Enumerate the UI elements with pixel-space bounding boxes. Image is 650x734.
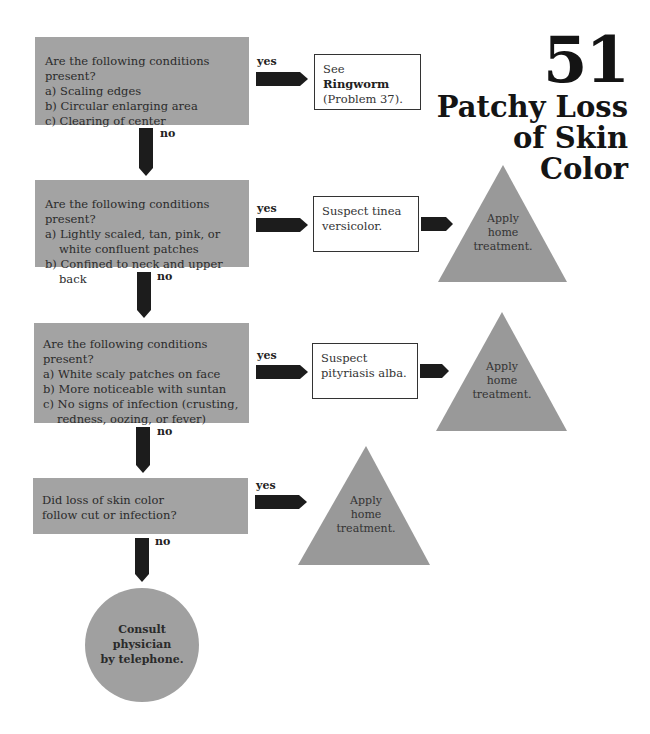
question-box-1: Are the following conditions present? a)… bbox=[35, 37, 249, 125]
problem-number: 51 bbox=[543, 28, 628, 92]
condition-item: c) No signs of infection (crusting, redn… bbox=[43, 397, 241, 427]
arrow-right-treat-1 bbox=[421, 217, 453, 231]
question-box-3: Are the following conditions present? a)… bbox=[34, 323, 249, 423]
arrow-down-no-3 bbox=[136, 427, 150, 473]
condition-item: b) Confined to neck and upper back bbox=[45, 257, 241, 287]
arrow-down-no-1 bbox=[139, 128, 153, 176]
arrow-down-no-4 bbox=[135, 538, 149, 582]
arrow-right-yes-1 bbox=[256, 72, 308, 86]
arrow-right-yes-3 bbox=[256, 365, 308, 379]
home-treatment-label-1: Apply home treatment. bbox=[463, 212, 543, 254]
question-prompt: Are the following conditions present? bbox=[45, 54, 241, 84]
question-prompt: Are the following conditions present? bbox=[43, 337, 241, 367]
title-line-2: of Skin bbox=[513, 123, 628, 154]
question-box-2: Are the following conditions present? a)… bbox=[35, 180, 249, 267]
question-prompt: Did loss of skin color follow cut or inf… bbox=[42, 493, 188, 523]
outcome-prefix: See bbox=[323, 62, 345, 76]
yes-label: yes bbox=[257, 202, 277, 215]
yes-label: yes bbox=[257, 55, 277, 68]
pityriasis-outcome-box: Suspect pityriasis alba. bbox=[312, 343, 418, 399]
condition-item: b) More noticeable with suntan bbox=[43, 382, 241, 397]
title-line-3: Color bbox=[540, 154, 628, 185]
arrow-right-treat-2 bbox=[420, 364, 449, 378]
question-prompt: Are the following conditions present? bbox=[45, 197, 241, 227]
outcome-text: Suspect tinea versicolor. bbox=[322, 204, 401, 233]
ringworm-link-text: Ringworm bbox=[323, 77, 389, 91]
arrow-right-yes-4 bbox=[255, 495, 307, 509]
no-label: no bbox=[157, 425, 172, 438]
home-treatment-label-2: Apply home treatment. bbox=[462, 360, 542, 402]
no-label: no bbox=[157, 270, 172, 283]
condition-item: a) Lightly scaled, tan, pink, or white c… bbox=[45, 227, 241, 257]
question-box-4: Did loss of skin color follow cut or inf… bbox=[33, 478, 248, 534]
yes-label: yes bbox=[257, 349, 277, 362]
no-label: no bbox=[160, 127, 175, 140]
title-line-1: Patchy Loss bbox=[437, 92, 628, 123]
no-label: no bbox=[155, 535, 170, 548]
condition-item: a) White scaly patches on face bbox=[43, 367, 241, 382]
home-treatment-label-3: Apply home treatment. bbox=[326, 494, 406, 536]
consult-physician-label: Consult physician by telephone. bbox=[87, 622, 197, 667]
condition-item: c) Clearing of center bbox=[45, 114, 241, 129]
tinea-outcome-box: Suspect tinea versicolor. bbox=[313, 196, 419, 252]
condition-item: b) Circular enlarging area bbox=[45, 99, 241, 114]
yes-label: yes bbox=[256, 479, 276, 492]
outcome-text: Suspect pityriasis alba. bbox=[321, 351, 407, 380]
arrow-right-yes-2 bbox=[256, 218, 308, 232]
condition-item: a) Scaling edges bbox=[45, 84, 241, 99]
ringworm-outcome-box: See Ringworm (Problem 37). bbox=[314, 54, 421, 110]
outcome-reference: (Problem 37). bbox=[323, 92, 403, 106]
